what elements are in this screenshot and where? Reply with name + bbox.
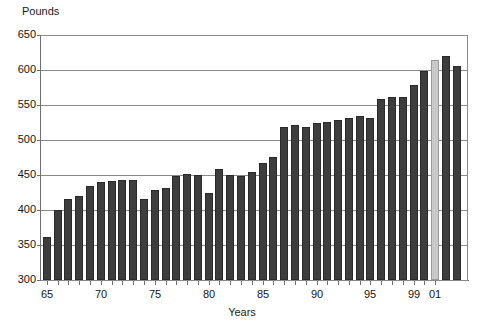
x-axis-tick-mark — [198, 281, 199, 285]
bar — [54, 210, 62, 280]
y-axis-tick-label: 350 — [0, 239, 36, 250]
x-axis-tick-mark — [112, 281, 113, 285]
x-axis-tick-mark — [144, 281, 145, 285]
x-axis-tick-mark — [47, 281, 48, 285]
x-axis-tick-mark — [284, 281, 285, 285]
x-axis-tick-mark — [68, 281, 69, 285]
x-axis-tick-mark — [241, 281, 242, 285]
x-axis-tick-label: 75 — [149, 288, 161, 300]
bar — [269, 157, 277, 280]
x-axis-tick-mark — [176, 281, 177, 285]
x-axis-tick-label: 85 — [257, 288, 269, 300]
bar — [86, 186, 94, 281]
bar — [323, 122, 331, 280]
bar — [313, 123, 321, 280]
y-axis-tick-label: 500 — [0, 134, 36, 145]
bar — [291, 125, 299, 280]
x-axis-tick-label: 90 — [311, 288, 323, 300]
bar — [431, 60, 439, 280]
bar — [118, 180, 126, 280]
bar — [399, 97, 407, 280]
x-axis-tick-mark — [187, 281, 188, 285]
x-axis-tick-mark — [122, 281, 123, 285]
bar — [377, 99, 385, 280]
bar — [356, 116, 364, 280]
x-axis-tick-mark — [360, 281, 361, 285]
bar — [280, 127, 288, 280]
x-axis-title: Years — [0, 306, 484, 318]
y-axis-tick-label: 400 — [0, 204, 36, 215]
x-axis-tick-label: 70 — [95, 288, 107, 300]
bar — [215, 169, 223, 280]
x-axis-tick-mark — [392, 281, 393, 285]
bar — [151, 190, 159, 280]
y-axis-tick-label: 550 — [0, 99, 36, 110]
x-axis-tick-mark — [414, 281, 415, 285]
y-axis-tick-mark — [37, 280, 41, 281]
bar — [97, 182, 105, 280]
bar — [453, 66, 461, 280]
x-axis-tick-mark — [306, 281, 307, 285]
bar — [75, 196, 83, 280]
y-axis-tick-label: 650 — [0, 29, 36, 40]
x-axis-tick-mark — [295, 281, 296, 285]
x-axis-tick-mark — [79, 281, 80, 285]
x-axis-tick-mark — [403, 281, 404, 285]
bar — [388, 97, 396, 280]
bar — [43, 237, 51, 280]
x-axis-tick-mark — [90, 281, 91, 285]
x-axis-tick-label: 65 — [41, 288, 53, 300]
x-axis-tick-mark — [273, 281, 274, 285]
x-axis-tick-mark — [230, 281, 231, 285]
bar — [410, 85, 418, 280]
y-axis-tick-label: 300 — [0, 274, 36, 285]
bar — [248, 172, 256, 281]
bar — [334, 120, 342, 280]
y-axis-tick-label: 600 — [0, 64, 36, 75]
x-axis-tick-mark — [435, 281, 436, 285]
bar — [345, 118, 353, 280]
x-axis-tick-mark — [219, 281, 220, 285]
x-axis-tick-mark — [101, 281, 102, 285]
y-axis-tick-label: 450 — [0, 169, 36, 180]
x-axis-tick-mark — [327, 281, 328, 285]
x-axis-tick-label: 80 — [203, 288, 215, 300]
y-axis-title: Pounds — [22, 5, 59, 17]
x-axis-tick-mark — [424, 281, 425, 285]
x-axis-tick-label: 95 — [364, 288, 376, 300]
bar — [108, 181, 116, 280]
x-axis-tick-mark — [58, 281, 59, 285]
bar — [237, 176, 245, 280]
x-axis-tick-mark — [166, 281, 167, 285]
bar — [64, 199, 72, 280]
x-axis-tick-mark — [263, 281, 264, 285]
x-axis-tick-mark — [317, 281, 318, 285]
bar — [140, 199, 148, 280]
bar — [442, 56, 450, 280]
x-axis-tick-mark — [338, 281, 339, 285]
x-axis-tick-mark — [349, 281, 350, 285]
bar — [302, 127, 310, 280]
bar — [172, 176, 180, 280]
x-axis-tick-label: 99 — [408, 288, 420, 300]
x-axis-tick-mark — [209, 281, 210, 285]
bar — [162, 188, 170, 280]
bar — [366, 118, 374, 280]
x-axis-tick-mark — [155, 281, 156, 285]
x-axis-tick-mark — [133, 281, 134, 285]
x-axis-tick-label: 01 — [429, 288, 441, 300]
bar — [259, 163, 267, 280]
x-axis-tick-mark — [252, 281, 253, 285]
bar — [205, 193, 213, 280]
bar-series — [41, 35, 468, 280]
bar — [420, 71, 428, 280]
bar-chart: Pounds 300350400450500550600650 65707580… — [0, 0, 484, 326]
x-axis-tick-mark — [370, 281, 371, 285]
bar — [194, 175, 202, 280]
bar — [183, 174, 191, 280]
bar — [226, 175, 234, 280]
bar — [129, 180, 137, 280]
x-axis-tick-mark — [381, 281, 382, 285]
